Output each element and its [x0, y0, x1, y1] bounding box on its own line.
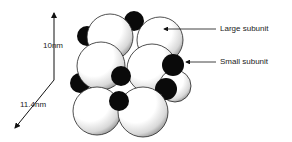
small-subunit — [111, 66, 131, 86]
depth-label: 11.4nm — [20, 100, 46, 109]
small-subunit — [109, 91, 129, 111]
small-subunit — [162, 54, 184, 76]
small-subunit-label: Small subunit — [220, 57, 268, 66]
dimension-arrows — [15, 13, 54, 128]
enzyme-diagram — [0, 0, 292, 142]
height-label: 10nm — [43, 41, 63, 50]
large-subunit-label: Large subunit — [220, 24, 268, 33]
